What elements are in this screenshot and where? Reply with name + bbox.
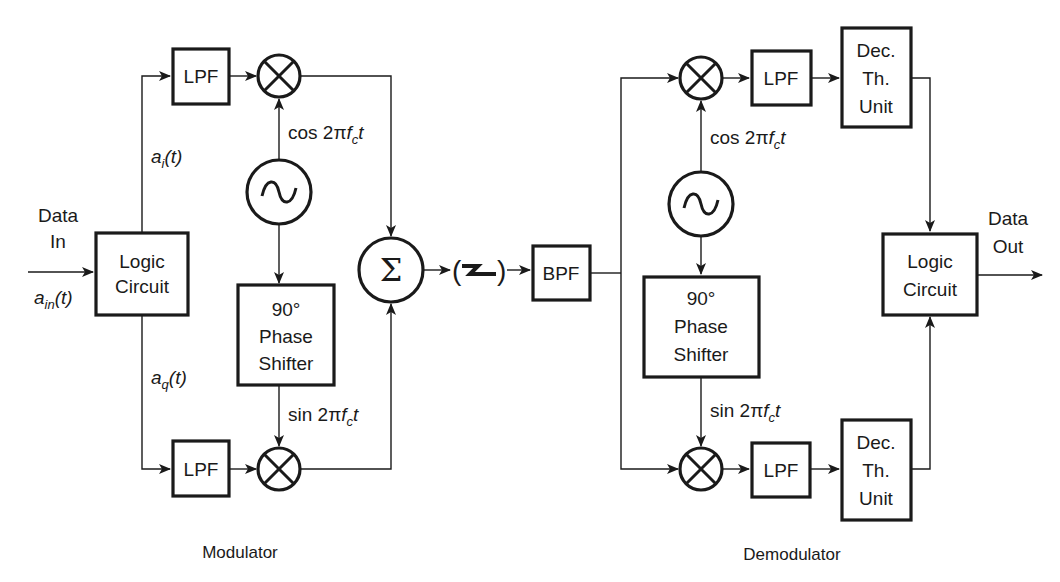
mod-oscillator-icon [247,160,311,224]
channel: ( ) [423,255,530,286]
demod-phase-shifter-label-2: Phase [674,316,728,337]
dec-top-label-1: Dec. [856,40,895,61]
demod-mixer-top-icon [680,57,722,99]
q-branch-wire [142,315,170,469]
demod-sin-label: sin 2πfct [710,400,781,425]
demodulator: LPF Dec. Th. Unit cos 2πfct 90° Phase Sh… [590,28,1042,564]
mod-lpf-bottom-label: LPF [184,459,219,480]
demod-lpf-bottom-label: LPF [764,460,799,481]
dec-bottom-label-3: Unit [859,488,894,509]
dec-top-label-3: Unit [859,96,894,117]
data-out-label-2: Out [993,236,1024,257]
demod-logic-circuit-label-2: Circuit [903,279,958,300]
data-in-label-line1: Data [38,205,79,226]
demod-phase-shifter-label-3: Shifter [674,344,730,365]
data-out-label-1: Data [988,208,1029,229]
mod-cos-label: cos 2πfct [288,122,364,147]
demod-phase-shifter-label-1: 90° [687,288,716,309]
mod-mixer-top-icon [258,55,300,97]
dec-top-label-2: Th. [862,68,889,89]
demod-i-bus-wire [621,78,678,273]
mod-sin-label: sin 2πfct [288,404,359,429]
channel-paren-right: ) [497,255,506,286]
qpsk-block-diagram: Data In ain(t) Logic Circuit ai(t) aq(t)… [0,0,1060,582]
mod-logic-circuit-block [96,233,188,315]
mod-mixer-top-to-sum-wire [300,76,391,236]
demod-mixer-bottom-icon [680,448,722,490]
demod-logic-circuit-label-1: Logic [907,251,952,272]
dec-bottom-label-1: Dec. [856,432,895,453]
mod-logic-circuit-label-1: Logic [119,251,164,272]
demod-oscillator-icon [669,172,733,236]
summer-icon: Σ [359,238,423,302]
mod-logic-circuit-label-2: Circuit [115,276,170,297]
svg-text:Σ: Σ [380,251,403,289]
ai-signal-label: ai(t) [151,146,182,171]
channel-paren-left: ( [452,255,462,286]
ain-signal-label: ain(t) [34,287,73,312]
demod-cos-label: cos 2πfct [710,127,786,152]
demod-lpf-top-label: LPF [764,68,799,89]
aq-signal-label: aq(t) [151,367,187,392]
mod-phase-shifter-label-2: Phase [259,326,313,347]
mod-phase-shifter-label-1: 90° [272,299,301,320]
modulator-section-label: Modulator [202,543,278,562]
bpf-label: BPF [543,263,580,284]
wireless-channel-icon [462,266,496,274]
mod-mixer-bottom-icon [258,448,300,490]
modulator: Data In ain(t) Logic Circuit ai(t) aq(t)… [28,49,423,562]
demod-logic-circuit-block [883,234,977,315]
dec-top-to-logic-wire [911,78,930,231]
mod-phase-shifter-label-3: Shifter [259,353,315,374]
mod-lpf-top-label: LPF [184,66,219,87]
dec-bottom-to-logic-wire [911,317,930,469]
dec-bottom-label-2: Th. [862,460,889,481]
data-in-label-line2: In [50,231,66,252]
demodulator-section-label: Demodulator [743,545,841,564]
